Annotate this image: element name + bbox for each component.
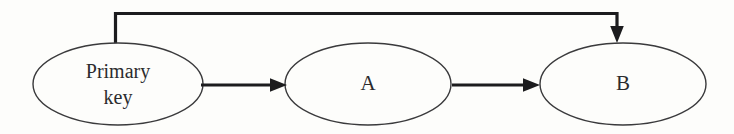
node-primary-key-label-line2: key (104, 86, 133, 109)
edge-a-to-b (452, 78, 540, 92)
node-b-label: B (616, 71, 630, 95)
node-b[interactable]: B (540, 43, 706, 125)
edge-primarykey-to-b-path (116, 14, 618, 47)
diagram-canvas: Primary key A B (0, 0, 734, 134)
node-primary-key-label-line1: Primary (86, 60, 150, 83)
diagram-svg: Primary key A B (0, 0, 734, 134)
node-primary-key-shape (33, 43, 203, 125)
node-a-label: A (360, 71, 376, 95)
edge-primarykey-to-a-arrowhead (270, 78, 287, 92)
edge-primarykey-to-b (116, 14, 624, 47)
edge-a-to-b-arrowhead (523, 78, 540, 92)
edge-primarykey-to-b-arrowhead (610, 26, 624, 43)
node-a[interactable]: A (285, 43, 451, 125)
edge-primarykey-to-a (201, 78, 287, 92)
node-primary-key[interactable]: Primary key (33, 43, 203, 125)
